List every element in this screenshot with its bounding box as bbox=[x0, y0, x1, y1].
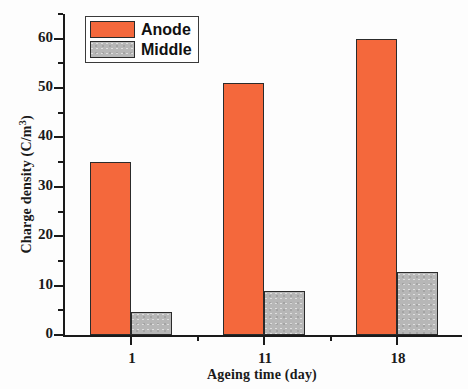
y-tick-major bbox=[54, 235, 63, 237]
y-tick-major bbox=[54, 87, 63, 89]
bar-middle-11 bbox=[264, 291, 305, 335]
x-tick-label: 1 bbox=[102, 350, 162, 367]
bar-chart-figure: Charge density (C/m3) Ageing time (day) … bbox=[0, 0, 468, 389]
bar-anode-11 bbox=[223, 83, 264, 335]
x-tick-major bbox=[396, 337, 398, 345]
x-tick-major bbox=[130, 337, 132, 345]
y-tick-label: 40 bbox=[13, 128, 53, 143]
legend-label-anode: Anode bbox=[141, 22, 191, 38]
y-tick-major bbox=[54, 285, 63, 287]
y-axis-title-exponent: 3 bbox=[17, 120, 28, 125]
y-tick-minor bbox=[58, 260, 63, 262]
legend-label-middle: Middle bbox=[141, 42, 192, 58]
y-tick-major bbox=[54, 136, 63, 138]
chart-legend: Anode Middle bbox=[85, 16, 199, 63]
bar-anode-1 bbox=[90, 162, 131, 335]
bar-middle-1 bbox=[131, 312, 172, 335]
x-axis-title: Ageing time (day) bbox=[62, 367, 462, 383]
y-tick-major bbox=[54, 186, 63, 188]
anode-swatch-icon bbox=[90, 21, 135, 38]
y-tick-minor bbox=[58, 62, 63, 64]
legend-item-middle: Middle bbox=[90, 40, 192, 59]
y-tick-label: 10 bbox=[13, 277, 53, 292]
x-tick-label: 11 bbox=[235, 350, 295, 367]
bar-middle-18 bbox=[397, 272, 438, 335]
y-tick-minor bbox=[58, 161, 63, 163]
x-tick-major bbox=[263, 337, 265, 345]
y-tick-major bbox=[54, 334, 63, 336]
y-axis-line bbox=[63, 14, 65, 337]
y-tick-major bbox=[54, 38, 63, 40]
middle-swatch-icon bbox=[90, 41, 135, 58]
x-tick-minor bbox=[197, 337, 199, 341]
plot-area: 6050403020100 11118 Anode Middle bbox=[63, 14, 462, 337]
y-tick-minor bbox=[58, 309, 63, 311]
y-tick-label: 20 bbox=[13, 227, 53, 242]
y-tick-minor bbox=[58, 112, 63, 114]
y-tick-label: 60 bbox=[13, 30, 53, 45]
y-axis-title-tail: ) bbox=[19, 115, 34, 120]
y-tick-label: 30 bbox=[13, 178, 53, 193]
x-tick-minor bbox=[330, 337, 332, 341]
y-tick-label: 50 bbox=[13, 79, 53, 94]
y-tick-minor bbox=[58, 211, 63, 213]
y-tick-minor bbox=[58, 13, 63, 15]
legend-item-anode: Anode bbox=[90, 20, 192, 39]
y-tick-label: 0 bbox=[13, 326, 53, 341]
x-tick-label: 18 bbox=[368, 350, 428, 367]
bar-anode-18 bbox=[356, 39, 397, 335]
